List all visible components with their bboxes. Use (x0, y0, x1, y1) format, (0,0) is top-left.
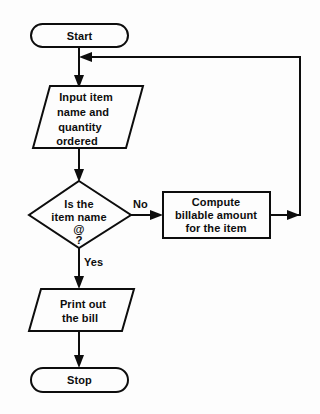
node-stop-label: Stop (67, 374, 92, 386)
node-stop[interactable]: Stop (31, 368, 128, 392)
arrowhead-down-icon (74, 276, 84, 289)
node-compute-line-3: for the item (185, 222, 246, 234)
arrowhead-left-icon (79, 52, 92, 62)
node-input-line-4: ordered (56, 135, 98, 147)
node-print-line-1: Print out (60, 298, 106, 310)
edge-input-to-decision (74, 148, 84, 182)
node-decision-line-4: ? (75, 234, 82, 246)
node-decision-line-1: Is the (64, 198, 93, 210)
edge-label-yes: Yes (84, 256, 103, 268)
node-input-line-1: Input item (59, 91, 113, 103)
node-compute-line-2: billable amount (175, 209, 257, 221)
node-input[interactable]: Input item name and quantity ordered (33, 86, 143, 148)
node-start-label: Start (67, 30, 93, 42)
node-decision[interactable]: Is the item name @ ? (29, 181, 131, 248)
flowchart-diagram: No Yes Start Input item name and quantit… (0, 0, 320, 414)
node-compute-line-1: Compute (192, 196, 240, 208)
edge-decision-to-compute: No (131, 198, 163, 220)
edge-start-to-input (74, 46, 84, 88)
arrowhead-right-icon (150, 210, 163, 220)
edge-print-to-stop (74, 331, 84, 368)
node-input-line-2: name and (57, 106, 109, 118)
flowchart-canvas: No Yes Start Input item name and quantit… (0, 0, 320, 414)
edge-decision-to-print: Yes (74, 248, 103, 289)
node-compute[interactable]: Compute billable amount for the item (163, 192, 270, 238)
node-input-line-3: quantity (58, 121, 102, 133)
edge-label-no: No (133, 198, 148, 210)
arrowhead-down-icon (74, 355, 84, 368)
node-print[interactable]: Print out the bill (29, 289, 134, 331)
print-parallelogram-shape (29, 289, 134, 331)
node-print-line-2: the bill (62, 312, 98, 324)
node-start[interactable]: Start (31, 24, 128, 47)
node-decision-line-2: item name (51, 211, 106, 223)
arrowhead-right-loop-icon (287, 210, 300, 220)
